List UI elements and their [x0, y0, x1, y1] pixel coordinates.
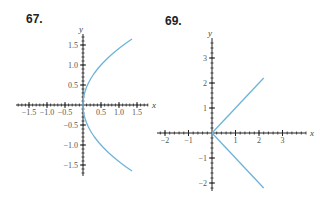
data-curve: [212, 78, 264, 133]
x-tick-label: 2: [257, 136, 261, 145]
y-tick-label: 3: [203, 54, 207, 63]
y-axis-label: y: [207, 28, 212, 38]
y-tick-label: −2: [198, 179, 207, 188]
x-tick-label: 3: [281, 136, 285, 145]
graph-69: −2−1123321−1−2xy: [0, 0, 334, 216]
y-tick-label: 1: [203, 104, 207, 113]
x-tick-label: −2: [161, 136, 170, 145]
data-curve: [212, 133, 264, 188]
x-tick-label: −1: [184, 136, 193, 145]
x-axis-label: x: [309, 128, 314, 138]
y-tick-label: 2: [203, 79, 207, 88]
y-tick-label: −1: [198, 154, 207, 163]
x-tick-label: 1: [234, 136, 238, 145]
